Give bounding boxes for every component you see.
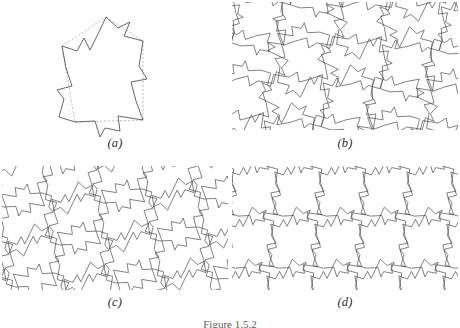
panel-a: (a) <box>0 0 230 164</box>
panel-c: (c) <box>0 164 230 328</box>
panel-b: (b) <box>230 0 460 164</box>
panel-d-label: (d) <box>230 295 460 310</box>
figure-page: (a) (b) (c) (d) Figure 1.5.2 <box>0 0 460 328</box>
panel-a-label: (a) <box>0 136 230 151</box>
panel-c-label: (c) <box>0 295 230 310</box>
figure-caption: Figure 1.5.2 <box>0 318 460 328</box>
panel-d: (d) <box>230 164 460 328</box>
panel-b-label: (b) <box>230 136 460 151</box>
